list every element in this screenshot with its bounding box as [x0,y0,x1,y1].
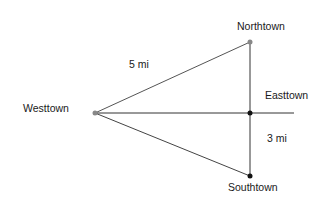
southtown-point [248,174,253,179]
road-westtown-northtown [95,42,250,113]
easttown-label: Easttown [265,90,308,101]
northtown-label: Northtown [237,21,285,32]
distance-label-3mi: 3 mi [267,133,287,144]
westtown-point [93,111,98,116]
road-westtown-southtown [95,113,250,176]
westtown-label: Westtown [23,103,69,114]
northtown-point [248,40,253,45]
distance-label-5mi: 5 mi [129,59,149,70]
southtown-label: Southtown [228,182,278,193]
easttown-point [248,111,253,116]
